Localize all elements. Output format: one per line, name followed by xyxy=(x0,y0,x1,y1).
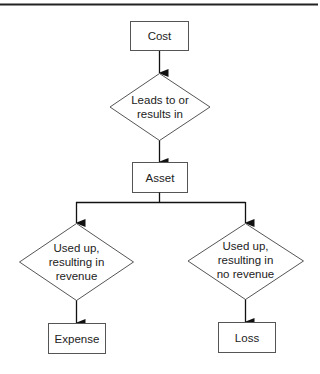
leads-to-label: Leads to or results in xyxy=(125,92,195,122)
used-no-revenue-line-3: no revenue xyxy=(217,267,275,281)
leads-to-line-2: results in xyxy=(137,107,183,121)
used-revenue-label: Used up, resulting in revenue xyxy=(36,240,117,284)
loss-label: Loss xyxy=(219,323,275,352)
asset-label: Asset xyxy=(133,163,187,192)
used-no-revenue-line-2: resulting in xyxy=(218,253,274,267)
used-revenue-line-2: resulting in xyxy=(49,255,105,269)
expense-label: Expense xyxy=(49,324,105,353)
cost-label: Cost xyxy=(131,22,188,50)
used-no-revenue-label: Used up, resulting in no revenue xyxy=(205,238,286,282)
used-revenue-line-3: revenue xyxy=(56,269,98,283)
used-no-revenue-line-1: Used up, xyxy=(222,239,268,253)
leads-to-line-1: Leads to or xyxy=(131,93,189,107)
used-revenue-line-1: Used up, xyxy=(53,241,99,255)
